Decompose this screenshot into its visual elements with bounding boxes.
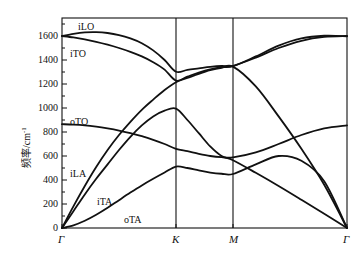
y-tick-label: 400 <box>32 175 58 185</box>
y-tick-label: 1600 <box>32 31 58 41</box>
y-tick-label: 1000 <box>32 103 58 113</box>
branch-curve-iTO <box>62 36 347 81</box>
branch-label-iTO: iTO <box>70 49 86 59</box>
x-tick-label-K: K <box>172 234 179 245</box>
x-tick-label-M: M <box>229 234 238 245</box>
y-axis-label: 频率/cm-1 <box>18 127 33 168</box>
y-axis-label-text: 频率/cm <box>21 133 32 168</box>
branch-label-iTA: iTA <box>97 197 112 207</box>
branch-label-oTA: oTA <box>124 215 142 225</box>
y-tick-label: 600 <box>32 151 58 161</box>
x-tick-label-Γ: Γ <box>58 234 64 245</box>
y-tick-label: 800 <box>32 127 58 137</box>
phonon-dispersion-figure: 频率/cm-1 02004006008001000120014001600 ΓK… <box>0 0 364 258</box>
branch-label-iLA: iLA <box>70 169 86 179</box>
y-tick-label: 1400 <box>32 55 58 65</box>
branch-label-iLO: iLO <box>78 22 94 32</box>
x-tick-label-Γ: Γ <box>343 234 349 245</box>
y-axis-label-exponent: -1 <box>20 127 28 133</box>
branch-label-oTO: oTO <box>70 117 88 127</box>
y-tick-label: 200 <box>32 199 58 209</box>
y-tick-label: 1200 <box>32 79 58 89</box>
y-tick-label: 0 <box>32 223 58 233</box>
